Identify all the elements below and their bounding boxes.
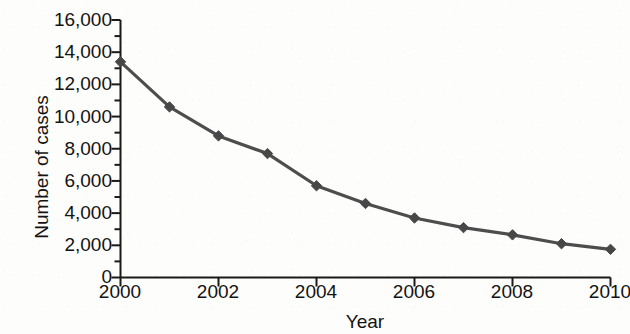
data-series-line	[121, 62, 611, 250]
data-point-marker	[409, 213, 419, 223]
x-axis-major-ticks	[121, 278, 611, 287]
data-point-marker	[360, 198, 370, 208]
plot-area	[0, 0, 630, 334]
data-point-marker	[556, 239, 566, 249]
data-point-marker	[507, 230, 517, 240]
data-point-marker	[605, 244, 615, 254]
data-point-markers	[115, 57, 615, 255]
data-point-marker	[458, 222, 468, 232]
chart-screenshot: Number of cases 16,000 14,000 12,000 10,…	[0, 0, 630, 334]
